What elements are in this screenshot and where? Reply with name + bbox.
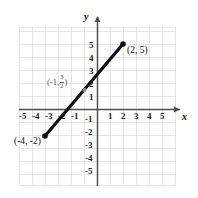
- y-tick-neg-2: -2: [85, 128, 93, 137]
- y-axis-arrow: [95, 16, 101, 22]
- y-tick-neg-1: -1: [85, 115, 93, 124]
- y-tick-2: 2: [89, 80, 94, 89]
- y-axis-label: y: [84, 12, 88, 22]
- y-tick-1: 1: [89, 93, 94, 102]
- x-tick-3: 3: [134, 112, 139, 121]
- x-tick-neg-4: -4: [32, 112, 40, 121]
- x-tick-neg-1: -1: [71, 112, 79, 121]
- midpoint-label-close: ): [65, 78, 68, 87]
- x-axis-label: x: [182, 112, 187, 122]
- x-tick-neg-3: -3: [45, 112, 53, 121]
- y-tick-neg-4: -4: [85, 154, 93, 163]
- graph-canvas: [0, 0, 198, 198]
- x-tick-2: 2: [121, 112, 126, 121]
- midpoint-label: (-1, 3 2 ): [47, 74, 67, 90]
- y-tick-neg-5: -5: [85, 167, 93, 176]
- point-label-upper: (2, 5): [127, 46, 148, 56]
- y-tick-neg-3: -3: [85, 141, 93, 150]
- y-tick-4: 4: [89, 54, 94, 63]
- x-tick-5: 5: [160, 112, 165, 121]
- x-tick-4: 4: [147, 112, 152, 121]
- endpoint-dot-upper: [120, 41, 126, 47]
- x-axis-arrow: [174, 107, 180, 113]
- x-tick-neg-5: -5: [19, 112, 27, 121]
- point-label-lower: (-4, -2): [14, 137, 41, 147]
- fraction-denominator: 2: [60, 83, 64, 91]
- x-tick-neg-2: -2: [58, 112, 66, 121]
- x-tick-1: 1: [108, 112, 113, 121]
- midpoint-dot: [83, 88, 87, 92]
- fraction-numerator: 3: [60, 74, 64, 82]
- midpoint-fraction: 3 2: [60, 74, 64, 90]
- coordinate-plane-figure: y x -5 -4 -3 -2 -1 1 2 3 4 5 1 2 3 4 5 -…: [0, 0, 198, 198]
- endpoint-dot-lower: [42, 133, 48, 139]
- y-tick-5: 5: [89, 41, 94, 50]
- y-tick-3: 3: [89, 67, 94, 76]
- midpoint-label-open: (-1,: [47, 78, 59, 87]
- axis-lines: [19, 17, 180, 186]
